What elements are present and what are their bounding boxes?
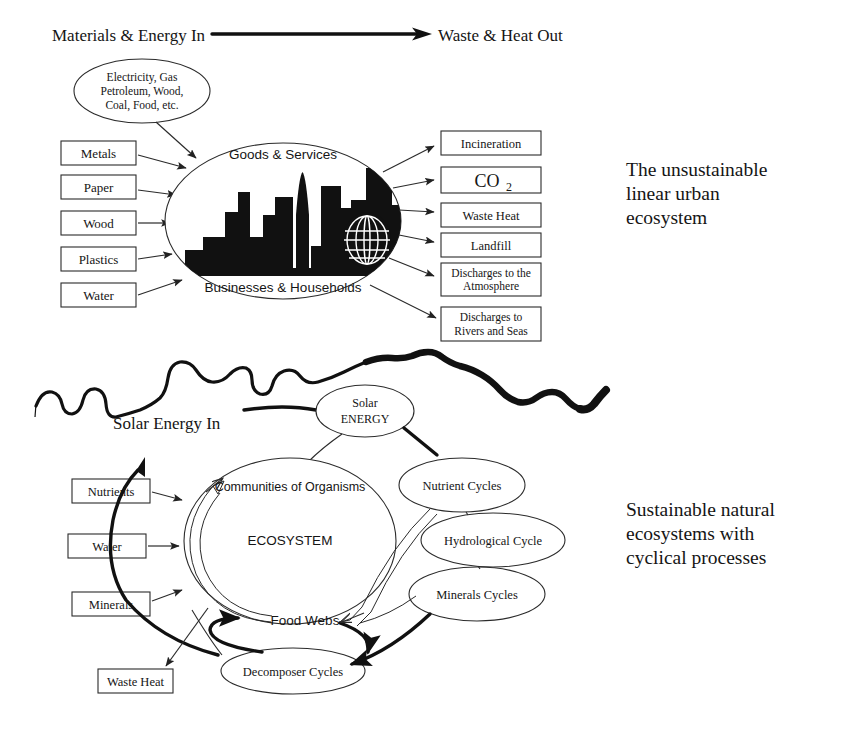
arrow-nutrients-to-ecosystem <box>152 492 182 500</box>
input-box-metals: Metals <box>61 141 136 165</box>
ecosystem-center-label: ECOSYSTEM <box>248 533 333 548</box>
minerals-cycles-label: Minerals Cycles <box>436 588 518 602</box>
label-solar-energy-in: Solar Energy In <box>113 414 221 433</box>
caption-lower-line-2: ecosystems with <box>626 523 755 544</box>
arrow-plastics-to-city <box>138 254 172 259</box>
output-box-co2: CO 2 <box>441 167 541 194</box>
arrow-foodwebs-to-decomposer <box>340 623 368 652</box>
input-box-nutrients-label: Nutrients <box>88 485 135 499</box>
source-ellipse-line-2: Petroleum, Wood, <box>101 85 184 98</box>
city-globe-dome <box>343 212 391 268</box>
arrow-city-to-waste-heat <box>399 210 434 212</box>
arrow-metals-to-city <box>138 155 186 168</box>
input-box-plastics: Plastics <box>61 247 136 271</box>
output-box-atmosphere: Discharges to the Atmosphere <box>441 263 541 296</box>
arrow-city-to-rivers <box>370 285 436 318</box>
caption-upper-line-2: linear urban <box>626 183 720 204</box>
input-box-paper: Paper <box>61 175 136 199</box>
solar-energy-ellipse <box>316 385 414 437</box>
arrow-city-to-co2 <box>393 180 434 188</box>
label-materials-energy-in: Materials & Energy In <box>52 26 206 45</box>
output-box-rivers-line-1: Discharges to <box>460 311 523 324</box>
line-solar-to-nutrient-cycles <box>404 428 437 455</box>
arrow-water-to-city <box>138 280 182 295</box>
output-box-incineration: Incineration <box>441 131 541 155</box>
ecosystem-bottom-label: Food Webs <box>271 613 340 628</box>
input-box-plastics-label: Plastics <box>79 252 119 267</box>
arrow-decomposer-to-foodwebs <box>210 618 262 652</box>
input-box-paper-label: Paper <box>84 180 114 195</box>
city-bottom-label: Businesses & Households <box>205 280 362 295</box>
solar-energy-line-2: ENERGY <box>341 412 390 426</box>
hydrological-cycle-label: Hydrological Cycle <box>444 534 543 548</box>
city-top-label: Goods & Services <box>229 147 337 162</box>
solar-energy-line-1: Solar <box>352 396 377 410</box>
input-box-wood: Wood <box>61 211 136 235</box>
output-box-atmosphere-line-2: Atmosphere <box>463 280 519 293</box>
output-box-co2-label: CO <box>474 171 499 191</box>
arrow-source-to-city <box>156 122 196 158</box>
output-box-waste-heat-lower-label: Waste Heat <box>107 675 164 689</box>
caption-upper-line-1: The unsustainable <box>626 159 767 180</box>
input-box-wood-label: Wood <box>83 216 114 231</box>
line-solar-to-ecosystem <box>308 434 342 462</box>
caption-upper-line-3: ecosystem <box>626 207 707 228</box>
ecosystem-top-label: Communities of Organisms <box>215 480 366 494</box>
input-box-nutrients: Nutrients <box>72 479 150 503</box>
input-box-water-label: Water <box>83 288 114 303</box>
arrow-paper-to-city <box>138 190 176 195</box>
input-box-water-lower: Water <box>68 534 146 558</box>
arrow-city-to-atmosphere <box>389 258 434 276</box>
caption-lower-line-1: Sustainable natural <box>626 499 775 520</box>
label-waste-heat-out: Waste & Heat Out <box>438 26 563 45</box>
output-box-landfill-label: Landfill <box>471 239 512 253</box>
source-ellipse-line-3: Coal, Food, etc. <box>105 99 178 112</box>
decomposer-cycles-label: Decomposer Cycles <box>243 665 343 679</box>
output-box-rivers-line-2: Rivers and Seas <box>454 325 528 337</box>
output-box-waste-heat-label: Waste Heat <box>463 209 520 223</box>
output-box-co2-subscript: 2 <box>506 180 512 194</box>
caption-lower-line-3: cyclical processes <box>626 547 766 568</box>
output-box-landfill: Landfill <box>441 233 541 257</box>
output-box-rivers-seas: Discharges to Rivers and Seas <box>441 307 541 341</box>
output-box-incineration-label: Incineration <box>461 137 522 151</box>
arrow-city-to-incineration <box>383 146 434 172</box>
arrow-minerals-to-ecosystem <box>152 590 182 601</box>
input-box-water-lower-label: Water <box>92 540 122 554</box>
output-box-waste-heat: Waste Heat <box>441 203 541 227</box>
urban-vs-natural-ecosystem-diagram: Materials & Energy In Waste & Heat Out E… <box>0 0 854 730</box>
line-solar-in-to-ellipse <box>244 407 316 410</box>
arrow-city-to-landfill <box>399 235 434 242</box>
hollow-arrow-minerals-to-foodwebs <box>360 596 416 623</box>
input-box-water: Water <box>61 283 136 307</box>
input-box-metals-label: Metals <box>81 146 116 161</box>
output-box-waste-heat-lower: Waste Heat <box>98 669 173 693</box>
output-box-atmosphere-line-1: Discharges to the <box>451 267 531 280</box>
nutrient-cycles-label: Nutrient Cycles <box>423 479 502 493</box>
diagram-canvas: Materials & Energy In Waste & Heat Out E… <box>0 0 854 730</box>
source-ellipse-line-1: Electricity, Gas <box>107 71 178 84</box>
